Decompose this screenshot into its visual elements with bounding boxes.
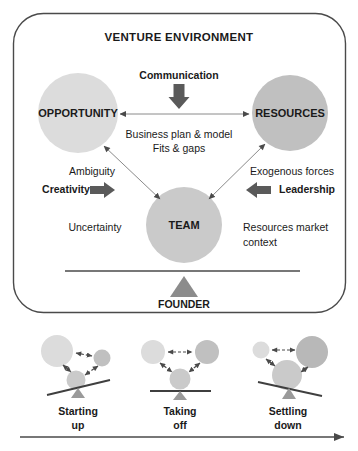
stage2-label-line1: Taking bbox=[163, 405, 196, 417]
stage2-circle-opportunity bbox=[141, 340, 165, 364]
stage-settling-down: Settling down bbox=[253, 336, 329, 431]
stage2-arrow-left bbox=[160, 363, 172, 372]
resources-market-line1: Resources market bbox=[243, 221, 328, 233]
stage1-circle-resources bbox=[94, 350, 111, 367]
resources-market-line2: context bbox=[243, 236, 277, 248]
page-title: VENTURE ENVIRONMENT bbox=[105, 31, 254, 43]
venture-environment-figure: VENTURE ENVIRONMENT Communication OPPORT… bbox=[0, 0, 358, 451]
uncertainty-label: Uncertainty bbox=[68, 221, 122, 233]
stage2-arrow-right bbox=[189, 363, 200, 372]
node-opportunity-label: OPPORTUNITY bbox=[38, 107, 118, 119]
diagram-root: VENTURE ENVIRONMENT Communication OPPORT… bbox=[0, 0, 358, 451]
stage2-circle-resources bbox=[195, 340, 219, 364]
stage1-circle-opportunity bbox=[41, 335, 73, 367]
stage1-label-line1: Starting bbox=[58, 405, 98, 417]
stage1-arrow-top bbox=[76, 353, 92, 356]
stage2-circle-team bbox=[170, 369, 191, 390]
node-resources-label: RESOURCES bbox=[255, 107, 325, 119]
stage-taking-off: Taking off bbox=[141, 340, 219, 431]
stage1-arrow-left bbox=[63, 365, 71, 372]
communication-label: Communication bbox=[139, 69, 218, 81]
ambiguity-label: Ambiguity bbox=[69, 165, 116, 177]
exogenous-forces-label: Exogenous forces bbox=[250, 165, 334, 177]
stage3-label-line2: down bbox=[274, 419, 301, 431]
creativity-label: Creativity bbox=[42, 183, 90, 195]
center-annotation-line1: Business plan & model bbox=[126, 128, 233, 140]
node-team-label: TEAM bbox=[168, 219, 199, 231]
center-annotation-line2: Fits & gaps bbox=[153, 142, 206, 154]
venture-environment-frame bbox=[14, 14, 346, 313]
stage1-arrow-right bbox=[85, 366, 98, 375]
stage3-circle-opportunity bbox=[253, 342, 270, 359]
stage2-label-line2: off bbox=[173, 419, 187, 431]
stage2-fulcrum-triangle-icon bbox=[173, 391, 187, 400]
leadership-label: Leadership bbox=[279, 183, 335, 195]
stage3-label-line1: Settling bbox=[269, 405, 308, 417]
founder-label: FOUNDER bbox=[158, 298, 210, 310]
stage3-circle-resources bbox=[296, 336, 328, 368]
stage1-label-line2: up bbox=[72, 419, 85, 431]
stage-starting-up: Starting up bbox=[41, 335, 111, 431]
stage3-arrow-left bbox=[266, 359, 275, 366]
stage3-arrow-right bbox=[301, 367, 308, 372]
